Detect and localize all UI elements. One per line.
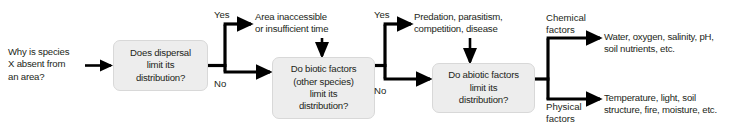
entry-question: Why is species X absent from an area? [8,46,86,83]
outcome-chemical-factors: Water, oxygen, salinity, pH, soil nutrie… [604,31,741,56]
branch-label-abiotic-chemical: Chemical factors [546,12,600,35]
outcome-physical-factors: Temperature, light, soil structure, fire… [604,92,741,117]
flowchart-diagram: Why is species X absent from an area? Do… [0,0,741,127]
branch-label-dispersal-no: No [214,78,226,90]
branch-label-abiotic-physical: Physical factors [546,101,600,124]
branch-label-dispersal-yes: Yes [214,9,230,21]
outcome-predation: Predation, parasitism, competition, dise… [414,11,544,36]
node-biotic-question[interactable]: Do biotic factors (other species) limit … [272,57,375,119]
node-abiotic-question[interactable]: Do abiotic factors limit its distributio… [432,63,535,113]
node-dispersal-question[interactable]: Does dispersal limit its distribution? [113,40,208,91]
outcome-area-inaccessible: Area inaccessible or insufficient time [255,11,395,36]
branch-label-biotic-no: No [374,85,386,97]
